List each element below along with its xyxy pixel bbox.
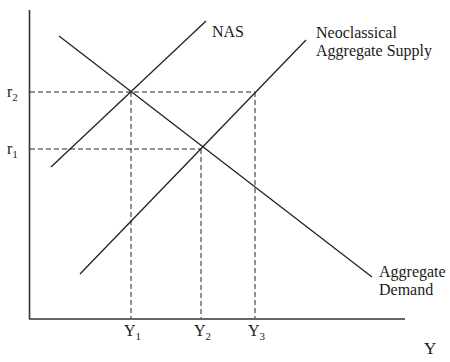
neoclassical-label-line1: Neoclassical <box>316 24 397 41</box>
neoclassical-as-curve <box>80 40 306 274</box>
nas-curve <box>51 21 206 167</box>
y2-label: Y2 <box>194 322 211 342</box>
ad-label-line1: Aggregate <box>379 263 446 281</box>
r2-label: r2 <box>7 83 18 103</box>
neoclassical-label-line2: Aggregate Supply <box>316 42 432 60</box>
x-axis-title: Y <box>424 339 436 358</box>
nas-label: NAS <box>212 23 244 40</box>
y3-label: Y3 <box>248 322 266 342</box>
aggregate-demand-curve <box>59 36 372 277</box>
r1-label: r1 <box>7 140 18 160</box>
is-lm-diagram: NAS Neoclassical Aggregate Supply Aggreg… <box>0 0 450 362</box>
y1-label: Y1 <box>124 322 141 342</box>
ad-label-line2: Demand <box>379 281 433 298</box>
